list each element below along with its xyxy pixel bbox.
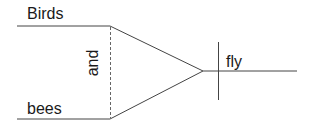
- conjunction-label: and: [85, 50, 101, 77]
- subject-birds-label: Birds: [27, 6, 63, 22]
- subject-bees-label: bees: [27, 101, 62, 117]
- predicate-label: fly: [226, 54, 242, 70]
- fork-lower: [110, 71, 203, 119]
- fork-upper: [110, 26, 203, 71]
